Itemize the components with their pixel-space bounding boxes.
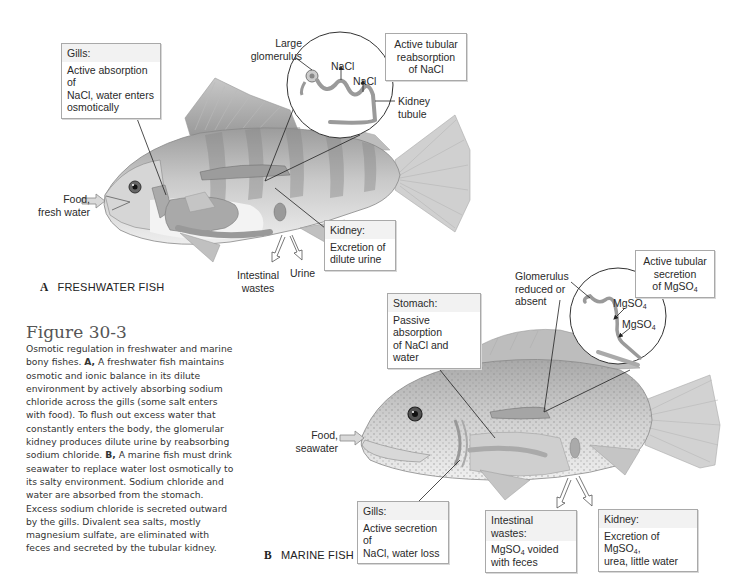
figure-caption: Osmotic regulation in freshwater and mar…	[26, 342, 234, 555]
active-tubular-reabsorption-callout: Active tubular reabsorption of NaCl	[385, 33, 467, 81]
panel-a-title: AFRESHWATER FISH	[40, 281, 164, 293]
intestinal-wastes-label: Intestinal wastes	[234, 269, 282, 294]
kidney-tubule-label: Kidney tubule	[398, 95, 430, 120]
marine-intestinal-wastes-callout: Intestinal wastes: MgSO4 voided with fec…	[485, 510, 577, 573]
freshwater-gills-callout: Gills: Active absorption of NaCl, water …	[61, 43, 161, 119]
marine-gills-callout: Gills: Active secretion of NaCl, water l…	[357, 501, 449, 564]
figure-title: Figure 30-3	[26, 322, 127, 342]
food-seawater-label: Food, seawater	[293, 429, 338, 454]
marine-stomach-callout: Stomach: Passive absorption of NaCl and …	[387, 293, 481, 369]
large-glomerulus-label: Large glomerulus	[248, 37, 302, 62]
urine-label: Urine	[290, 267, 315, 280]
freshwater-kidney-callout: Kidney: Excretion of dilute urine	[324, 220, 396, 271]
nacl-label-1: NaCl	[331, 60, 354, 73]
callout-body: Active absorption of NaCl, water enters …	[62, 62, 160, 118]
nacl-label-2: NaCl	[353, 75, 376, 88]
panel-b-title: BMARINE FISH	[264, 549, 354, 561]
active-tubular-secretion-callout: Active tubular secretion of MgSO4	[635, 250, 715, 298]
glomerulus-reduced-label: Glomerulus reduced or absent	[515, 270, 569, 308]
food-freshwater-label: Food, fresh water	[38, 193, 90, 218]
mgso4-label-1: MgSO4	[613, 297, 647, 310]
marine-kidney-callout: Kidney: Excretion of MgSO4, urea, little…	[598, 509, 698, 572]
mgso4-label-2: MgSO4	[622, 318, 656, 331]
callout-heading: Gills:	[62, 44, 160, 62]
